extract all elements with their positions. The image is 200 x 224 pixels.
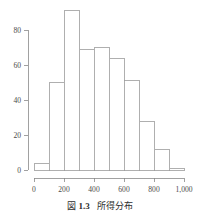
histogram-svg: 020406080 02004006008001,000	[0, 0, 200, 196]
x-tick-label: 600	[118, 185, 130, 194]
y-axis-ticks	[24, 30, 28, 170]
histogram-bar	[109, 58, 124, 170]
caption-figure-word: 図	[67, 201, 76, 211]
caption-figure-title: 所得分布	[97, 201, 133, 211]
x-tick-label: 400	[88, 185, 100, 194]
y-axis-labels: 020406080	[13, 26, 21, 175]
caption-figure-number: 1.3	[78, 201, 89, 211]
y-tick-label: 60	[13, 61, 21, 70]
histogram-bar	[124, 81, 139, 170]
figure-container: 020406080 02004006008001,000 図1.3所得分布	[0, 0, 200, 224]
x-tick-label: 1,000	[175, 185, 192, 194]
histogram-bar	[139, 121, 154, 170]
y-tick-label: 0	[17, 166, 21, 175]
histogram-plot: 020406080 02004006008001,000	[0, 0, 200, 196]
histogram-bar	[94, 48, 109, 171]
x-tick-label: 800	[148, 185, 160, 194]
histogram-bar	[169, 168, 184, 170]
x-tick-label: 200	[58, 185, 70, 194]
x-axis-ticks	[34, 178, 184, 182]
histogram-bar	[79, 49, 94, 170]
x-tick-label: 0	[32, 185, 36, 194]
y-tick-label: 80	[13, 26, 21, 35]
histogram-bar	[34, 163, 49, 170]
y-tick-label: 40	[13, 96, 21, 105]
x-axis-labels: 02004006008001,000	[32, 185, 193, 194]
figure-caption: 図1.3所得分布	[0, 200, 200, 212]
histogram-bars	[34, 11, 184, 170]
histogram-bar	[154, 149, 169, 170]
histogram-bar	[64, 11, 79, 170]
y-tick-label: 20	[13, 131, 21, 140]
histogram-bar	[49, 83, 64, 171]
